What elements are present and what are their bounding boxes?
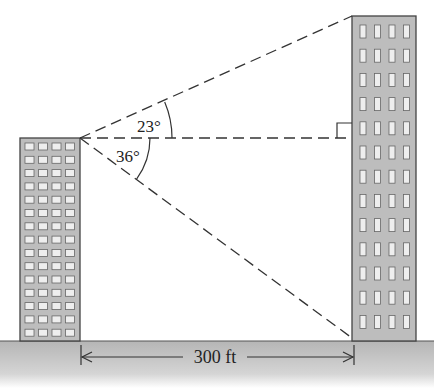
- window: [66, 276, 75, 283]
- window: [404, 122, 410, 135]
- window: [66, 170, 75, 177]
- window: [404, 194, 410, 207]
- distance-label: 300 ft: [194, 347, 237, 367]
- window: [66, 249, 75, 256]
- window: [375, 194, 381, 207]
- window: [52, 223, 61, 230]
- window: [39, 249, 48, 256]
- window: [25, 143, 34, 150]
- window: [39, 236, 48, 243]
- window: [389, 219, 395, 232]
- window: [52, 170, 61, 177]
- window: [25, 156, 34, 163]
- window: [360, 170, 366, 183]
- window: [404, 315, 410, 328]
- window: [52, 249, 61, 256]
- window: [66, 263, 75, 270]
- line-of-elevation: [80, 16, 352, 138]
- window: [66, 303, 75, 310]
- window: [25, 329, 34, 336]
- window: [25, 289, 34, 296]
- window: [66, 196, 75, 203]
- window: [404, 170, 410, 183]
- window: [39, 276, 48, 283]
- window: [389, 315, 395, 328]
- window: [389, 122, 395, 135]
- window: [39, 289, 48, 296]
- window: [375, 73, 381, 86]
- window: [39, 263, 48, 270]
- window: [375, 98, 381, 111]
- window: [360, 219, 366, 232]
- window: [404, 146, 410, 159]
- window: [404, 243, 410, 256]
- window: [375, 25, 381, 38]
- window: [39, 316, 48, 323]
- window: [25, 223, 34, 230]
- window: [389, 243, 395, 256]
- window: [52, 183, 61, 190]
- window: [404, 267, 410, 280]
- left-building: [20, 138, 80, 341]
- window: [360, 315, 366, 328]
- window: [389, 170, 395, 183]
- window: [404, 49, 410, 62]
- window: [360, 25, 366, 38]
- window: [360, 291, 366, 304]
- window: [360, 122, 366, 135]
- window: [389, 49, 395, 62]
- window: [39, 210, 48, 217]
- window: [389, 73, 395, 86]
- window: [25, 263, 34, 270]
- window: [25, 196, 34, 203]
- window: [360, 267, 366, 280]
- window: [360, 146, 366, 159]
- window: [404, 291, 410, 304]
- window: [375, 291, 381, 304]
- window: [404, 73, 410, 86]
- window: [52, 196, 61, 203]
- window: [389, 25, 395, 38]
- window: [360, 194, 366, 207]
- window: [66, 289, 75, 296]
- window: [66, 143, 75, 150]
- window: [404, 98, 410, 111]
- window: [25, 303, 34, 310]
- window: [52, 316, 61, 323]
- window: [375, 267, 381, 280]
- window: [375, 170, 381, 183]
- window: [66, 183, 75, 190]
- window: [52, 156, 61, 163]
- right-angle-marker: [337, 123, 352, 138]
- window: [66, 210, 75, 217]
- window: [360, 49, 366, 62]
- window: [66, 223, 75, 230]
- window: [375, 219, 381, 232]
- sight-lines: [80, 16, 352, 338]
- window: [360, 98, 366, 111]
- window: [66, 316, 75, 323]
- window: [25, 249, 34, 256]
- window: [52, 329, 61, 336]
- window: [389, 267, 395, 280]
- window: [66, 329, 75, 336]
- window: [52, 289, 61, 296]
- window: [52, 276, 61, 283]
- window: [25, 276, 34, 283]
- window: [52, 303, 61, 310]
- line-of-depression: [80, 138, 352, 338]
- window: [52, 210, 61, 217]
- window: [39, 170, 48, 177]
- window: [39, 183, 48, 190]
- window: [39, 143, 48, 150]
- window: [66, 156, 75, 163]
- right-building: [352, 16, 416, 341]
- window: [25, 316, 34, 323]
- window: [25, 210, 34, 217]
- window: [389, 146, 395, 159]
- window: [25, 170, 34, 177]
- window: [389, 194, 395, 207]
- window: [39, 303, 48, 310]
- window: [52, 236, 61, 243]
- window: [39, 156, 48, 163]
